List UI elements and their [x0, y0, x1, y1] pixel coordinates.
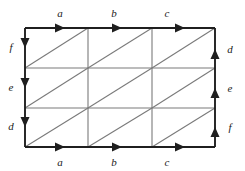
arrowhead-top-c: [175, 24, 185, 33]
edge-label-top-c: c: [165, 7, 170, 19]
edge-identification-diagram: a b c a b c f e d d e f: [0, 0, 245, 171]
diagonal-r3c1: [25, 108, 88, 147]
edge-label-bottom-b: b: [111, 156, 117, 168]
arrowhead-left-e: [21, 78, 30, 88]
diagonal-r2c3: [152, 68, 215, 108]
arrowhead-bottom-c: [175, 143, 185, 152]
cell-diagonals: [25, 28, 215, 147]
bottom-edge-labels: a b c: [57, 156, 169, 168]
figure-container: a b c a b c f e d d e f: [0, 0, 245, 171]
edge-label-bottom-c: c: [165, 156, 170, 168]
arrowhead-bottom-b: [112, 143, 122, 152]
edge-label-top-b: b: [111, 7, 117, 19]
diagonal-r1c2: [88, 28, 152, 68]
edge-label-top-a: a: [57, 7, 63, 19]
arrowhead-left-d: [21, 117, 30, 127]
edge-label-left-f: f: [9, 41, 14, 53]
arrowhead-right-e: [211, 88, 220, 98]
edge-label-right-d: d: [227, 43, 233, 55]
edge-label-right-f: f: [228, 121, 233, 133]
diagonal-r1c1: [25, 28, 88, 68]
diagonal-r2c2: [88, 68, 152, 108]
left-edge-labels: f e d: [8, 41, 14, 132]
arrowhead-left-f: [21, 38, 30, 48]
edge-label-left-d: d: [8, 120, 14, 132]
edge-label-right-e: e: [228, 82, 233, 94]
arrowhead-top-b: [112, 24, 122, 33]
diagonal-r3c2: [88, 108, 152, 147]
arrowhead-bottom-a: [55, 143, 65, 152]
diagonal-r3c3: [152, 108, 215, 147]
arrowhead-right-d: [211, 49, 220, 59]
arrowhead-top-a: [55, 24, 65, 33]
diagonal-r1c3: [152, 28, 215, 68]
edge-label-bottom-a: a: [57, 156, 63, 168]
edge-label-left-e: e: [9, 81, 14, 93]
right-edge-labels: d e f: [227, 43, 233, 133]
diagonal-r2c1: [25, 68, 88, 108]
top-edge-labels: a b c: [57, 7, 169, 19]
arrowhead-right-f: [211, 127, 220, 137]
